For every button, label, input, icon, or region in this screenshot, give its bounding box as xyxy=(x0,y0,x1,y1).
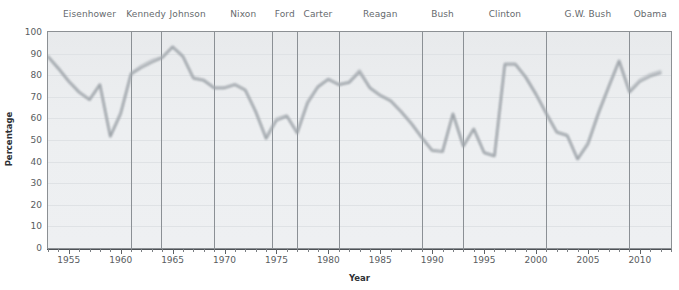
x-tick-major-1970 xyxy=(225,249,226,254)
x-tick-minor-1988 xyxy=(411,249,412,252)
x-tick-minor-2009 xyxy=(629,249,630,252)
y-tick-label-30: 30 xyxy=(0,178,42,188)
x-tick-minor-1998 xyxy=(515,249,516,252)
x-tick-minor-1993 xyxy=(463,249,464,252)
x-tick-minor-2013 xyxy=(671,249,672,252)
x-tick-label-1960: 1960 xyxy=(109,255,132,265)
x-tick-major-1985 xyxy=(380,249,381,254)
president-era-label-band: EisenhowerKennedyJohnsonNixonFordCarterR… xyxy=(0,0,679,26)
x-tick-minor-1958 xyxy=(100,249,101,252)
president-label-reagan: Reagan xyxy=(363,9,397,19)
x-tick-minor-1996 xyxy=(494,249,495,252)
x-tick-major-1960 xyxy=(121,249,122,254)
x-tick-minor-1976 xyxy=(287,249,288,252)
plot-area xyxy=(47,31,672,249)
president-label-clinton: Clinton xyxy=(489,9,521,19)
x-tick-minor-1994 xyxy=(474,249,475,252)
y-tick-label-90: 90 xyxy=(0,49,42,59)
x-tick-major-1965 xyxy=(173,249,174,254)
x-tick-minor-1978 xyxy=(308,249,309,252)
x-tick-minor-2007 xyxy=(609,249,610,252)
x-tick-minor-1983 xyxy=(360,249,361,252)
x-tick-minor-2002 xyxy=(557,249,558,252)
x-tick-minor-1954 xyxy=(58,249,59,252)
y-tick-label-70: 70 xyxy=(0,92,42,102)
x-tick-minor-2008 xyxy=(619,249,620,252)
president-label-g-w-bush: G.W. Bush xyxy=(565,9,612,19)
x-tick-minor-2011 xyxy=(650,249,651,252)
x-tick-minor-1968 xyxy=(204,249,205,252)
x-tick-minor-1977 xyxy=(297,249,298,252)
x-tick-minor-2006 xyxy=(598,249,599,252)
x-tick-major-2010 xyxy=(640,249,641,254)
x-tick-minor-1981 xyxy=(339,249,340,252)
x-tick-major-1980 xyxy=(328,249,329,254)
y-axis-title: Percentage xyxy=(4,108,14,170)
x-tick-minor-1973 xyxy=(256,249,257,252)
x-tick-minor-1953 xyxy=(48,249,49,252)
y-tick-label-100: 100 xyxy=(0,27,42,37)
x-tick-minor-1967 xyxy=(193,249,194,252)
x-tick-minor-1962 xyxy=(141,249,142,252)
x-tick-minor-1961 xyxy=(131,249,132,252)
x-tick-minor-1982 xyxy=(349,249,350,252)
x-tick-label-1995: 1995 xyxy=(473,255,496,265)
x-tick-minor-1997 xyxy=(505,249,506,252)
x-tick-major-1975 xyxy=(276,249,277,254)
series-line-0 xyxy=(48,47,661,159)
x-tick-minor-1974 xyxy=(266,249,267,252)
president-label-ford: Ford xyxy=(275,9,295,19)
series-lines xyxy=(48,32,671,248)
x-tick-major-2000 xyxy=(536,249,537,254)
president-label-carter: Carter xyxy=(304,9,333,19)
y-tick-label-20: 20 xyxy=(0,200,42,210)
x-tick-major-1995 xyxy=(484,249,485,254)
x-tick-label-1980: 1980 xyxy=(317,255,340,265)
x-tick-minor-1959 xyxy=(110,249,111,252)
x-tick-major-1990 xyxy=(432,249,433,254)
x-tick-label-1985: 1985 xyxy=(369,255,392,265)
x-tick-major-2005 xyxy=(588,249,589,254)
x-tick-label-1975: 1975 xyxy=(265,255,288,265)
x-tick-major-1955 xyxy=(69,249,70,254)
x-tick-minor-1979 xyxy=(318,249,319,252)
x-tick-label-2005: 2005 xyxy=(576,255,599,265)
x-tick-label-1965: 1965 xyxy=(161,255,184,265)
x-tick-minor-1956 xyxy=(79,249,80,252)
president-label-bush: Bush xyxy=(431,9,454,19)
president-label-obama: Obama xyxy=(634,9,667,19)
x-tick-minor-2004 xyxy=(578,249,579,252)
trust-in-government-line-chart: EisenhowerKennedyJohnsonNixonFordCarterR… xyxy=(0,0,679,290)
president-label-eisenhower: Eisenhower xyxy=(63,9,116,19)
x-tick-minor-1999 xyxy=(526,249,527,252)
y-tick-label-0: 0 xyxy=(0,243,42,253)
x-tick-label-1970: 1970 xyxy=(213,255,236,265)
president-label-johnson: Johnson xyxy=(170,9,206,19)
x-tick-minor-1972 xyxy=(245,249,246,252)
x-tick-minor-1963 xyxy=(152,249,153,252)
president-label-kennedy: Kennedy xyxy=(126,9,166,19)
x-tick-minor-1964 xyxy=(162,249,163,252)
x-tick-minor-2003 xyxy=(567,249,568,252)
x-tick-minor-1957 xyxy=(90,249,91,252)
y-tick-label-10: 10 xyxy=(0,221,42,231)
president-label-nixon: Nixon xyxy=(230,9,256,19)
x-axis-title: Year xyxy=(349,273,370,283)
x-tick-minor-1969 xyxy=(214,249,215,252)
x-tick-label-2010: 2010 xyxy=(628,255,651,265)
x-tick-label-1990: 1990 xyxy=(421,255,444,265)
x-tick-minor-1966 xyxy=(183,249,184,252)
x-tick-minor-1971 xyxy=(235,249,236,252)
x-tick-minor-1991 xyxy=(443,249,444,252)
x-tick-minor-1987 xyxy=(401,249,402,252)
x-tick-minor-1992 xyxy=(453,249,454,252)
x-tick-minor-1989 xyxy=(422,249,423,252)
x-tick-minor-2001 xyxy=(546,249,547,252)
x-tick-label-2000: 2000 xyxy=(525,255,548,265)
y-tick-label-80: 80 xyxy=(0,70,42,80)
x-tick-label-1955: 1955 xyxy=(57,255,80,265)
x-tick-minor-1984 xyxy=(370,249,371,252)
x-tick-minor-2012 xyxy=(661,249,662,252)
x-tick-minor-1986 xyxy=(391,249,392,252)
